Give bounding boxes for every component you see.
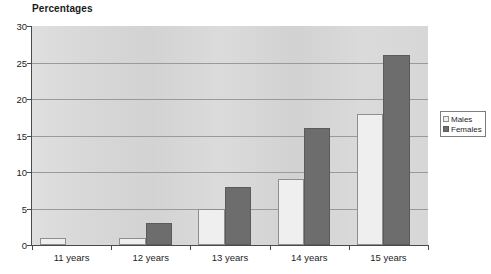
x-axis-tick-mark bbox=[190, 245, 191, 250]
plot-area bbox=[32, 26, 428, 245]
x-axis-category-label: 14 years bbox=[291, 252, 327, 263]
y-axis-tick-labels: 051015202530 bbox=[0, 0, 27, 274]
bar-males-11-years bbox=[40, 238, 66, 245]
x-axis-tick-mark bbox=[270, 245, 271, 250]
chart-legend: Males Females bbox=[440, 111, 486, 137]
bar-males-15-years bbox=[357, 114, 383, 245]
y-axis-tick-mark bbox=[27, 209, 31, 210]
chart-title: Percentages bbox=[32, 3, 93, 14]
legend-item-females[interactable]: Females bbox=[443, 124, 482, 134]
bar-males-13-years bbox=[198, 209, 224, 246]
bar-females-14-years bbox=[304, 128, 330, 245]
legend-swatch-females-icon bbox=[443, 126, 449, 132]
y-axis-tick-label: 15 bbox=[5, 130, 27, 141]
x-axis-category-label: 13 years bbox=[212, 252, 248, 263]
x-axis-tick-mark bbox=[349, 245, 350, 250]
legend-label-males: Males bbox=[451, 115, 472, 124]
x-axis-category-label: 12 years bbox=[133, 252, 169, 263]
y-axis-tick-mark bbox=[27, 26, 31, 27]
bar-chart: Percentages 051015202530 11 years12 year… bbox=[0, 0, 491, 274]
y-axis-line bbox=[31, 26, 32, 246]
x-axis-line bbox=[31, 245, 429, 246]
y-axis-tick-label: 10 bbox=[5, 167, 27, 178]
y-axis-tick-label: 20 bbox=[5, 94, 27, 105]
bar-males-14-years bbox=[278, 179, 304, 245]
bar-males-12-years bbox=[119, 238, 145, 245]
x-axis-tick-mark bbox=[111, 245, 112, 250]
bar-females-12-years bbox=[146, 223, 172, 245]
x-axis-category-label: 11 years bbox=[54, 252, 90, 263]
y-axis-tick-mark bbox=[27, 136, 31, 137]
legend-label-females: Females bbox=[451, 125, 482, 134]
y-axis-tick-mark bbox=[27, 172, 31, 173]
y-axis-tick-label: 5 bbox=[5, 203, 27, 214]
y-axis-tick-mark bbox=[27, 99, 31, 100]
legend-swatch-males-icon bbox=[443, 116, 449, 122]
y-axis-tick-mark bbox=[27, 245, 31, 246]
gridline bbox=[32, 63, 428, 64]
x-axis-tick-mark bbox=[32, 245, 33, 250]
gridline bbox=[32, 99, 428, 100]
y-axis-tick-label: 30 bbox=[5, 21, 27, 32]
bar-females-13-years bbox=[225, 187, 251, 245]
y-axis-tick-label: 25 bbox=[5, 57, 27, 68]
y-axis-tick-mark bbox=[27, 63, 31, 64]
bar-females-15-years bbox=[383, 55, 409, 245]
y-axis-tick-label: 0 bbox=[5, 240, 27, 251]
x-axis-category-label: 15 years bbox=[370, 252, 406, 263]
legend-item-males[interactable]: Males bbox=[443, 114, 482, 124]
x-axis-tick-mark bbox=[428, 245, 429, 250]
